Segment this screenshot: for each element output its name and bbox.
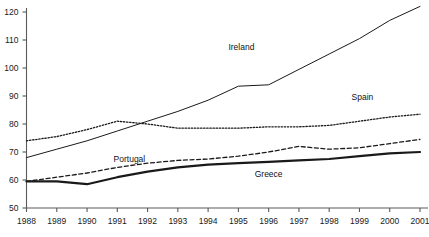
x-tick-label: 1992 [138, 217, 157, 226]
x-tick-label: 1990 [78, 217, 97, 226]
x-tick-label: 1991 [108, 217, 127, 226]
series-line-portugal [27, 139, 421, 181]
y-tick-label: 50 [0, 204, 19, 213]
series-label-portugal: Portugal [114, 155, 146, 164]
series-label-greece: Greece [255, 170, 283, 179]
x-tick-label: 2001 [411, 217, 429, 226]
y-tick-label: 90 [0, 92, 19, 101]
x-tick-label: 1993 [168, 217, 187, 226]
series-line-greece [27, 152, 421, 184]
x-tick-label: 2000 [380, 217, 399, 226]
x-tick-label: 1994 [199, 217, 218, 226]
y-tick-label: 100 [0, 64, 19, 73]
series-line-spain [27, 114, 421, 141]
x-tick-label: 1996 [259, 217, 278, 226]
x-tick-label: 1998 [320, 217, 339, 226]
y-tick-label: 70 [0, 148, 19, 157]
x-tick-label: 1989 [47, 217, 66, 226]
y-tick-label: 60 [0, 176, 19, 185]
axis-tick-marks [23, 12, 421, 212]
axis-lines [27, 8, 429, 208]
x-tick-label: 1997 [289, 217, 308, 226]
x-tick-label: 1988 [17, 217, 36, 226]
y-tick-label: 80 [0, 120, 19, 129]
y-tick-label: 110 [0, 36, 19, 45]
series-label-ireland: Ireland [228, 43, 254, 52]
series-line-ireland [27, 6, 421, 157]
x-tick-label: 1999 [350, 217, 369, 226]
series-label-spain: Spain [352, 93, 374, 102]
y-tick-label: 120 [0, 8, 19, 17]
x-tick-label: 1995 [229, 217, 248, 226]
